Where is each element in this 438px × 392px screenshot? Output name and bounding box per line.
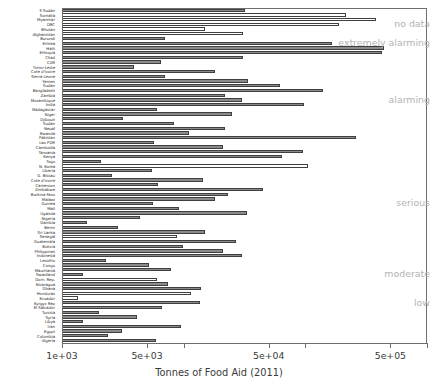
bar <box>62 169 152 172</box>
bar <box>62 136 356 139</box>
severity-annotation: moderate <box>384 268 430 279</box>
bar <box>62 188 263 191</box>
bar <box>62 296 78 299</box>
bar <box>62 9 245 12</box>
bar <box>62 311 99 314</box>
bar <box>62 13 346 16</box>
bar <box>62 145 223 148</box>
bar <box>62 98 242 101</box>
bar <box>62 60 161 63</box>
bar <box>62 56 243 59</box>
bar <box>62 273 83 276</box>
severity-annotation: no data <box>394 18 430 29</box>
bar <box>62 235 177 238</box>
bar <box>62 84 280 87</box>
bar <box>62 183 158 186</box>
bar <box>62 37 165 40</box>
bar <box>62 46 384 49</box>
bar <box>62 79 248 82</box>
bar <box>62 18 376 21</box>
plot-area <box>62 8 427 343</box>
bar <box>62 178 203 181</box>
bar <box>62 27 205 30</box>
bar <box>62 263 149 266</box>
bar <box>62 254 242 257</box>
bar <box>62 155 282 158</box>
bar <box>62 131 189 134</box>
x-axis-tick <box>390 343 391 348</box>
bar <box>62 122 174 125</box>
bar <box>62 127 225 130</box>
bar <box>62 315 137 318</box>
bar <box>62 325 181 328</box>
bar <box>62 193 228 196</box>
x-axis-tick <box>427 343 428 348</box>
bar <box>62 240 236 243</box>
x-axis-tick-label: 5e+03 <box>131 350 162 361</box>
bar <box>62 245 183 248</box>
bar <box>62 282 168 285</box>
bar <box>62 259 106 262</box>
bar <box>62 292 191 295</box>
bar <box>62 108 157 111</box>
bar <box>62 197 215 200</box>
x-axis-tick-label: 1e+03 <box>46 350 77 361</box>
bar <box>62 334 108 337</box>
x-axis-tick <box>305 343 306 348</box>
x-axis-line <box>62 343 427 344</box>
bar <box>62 329 122 332</box>
x-axis-tick <box>147 343 148 348</box>
bar <box>62 249 223 252</box>
bar <box>62 117 123 120</box>
bar <box>62 112 232 115</box>
bar <box>62 89 323 92</box>
bar <box>62 207 179 210</box>
food-aid-bar-chart: S SudanSomaliaMyanmarDRCBhutanAfghanista… <box>0 0 438 392</box>
x-axis-tick-label: 5e+05 <box>375 350 406 361</box>
bar <box>62 221 87 224</box>
bar <box>62 103 304 106</box>
bar <box>62 216 140 219</box>
bar <box>62 70 215 73</box>
bar <box>62 32 243 35</box>
bar <box>62 141 154 144</box>
severity-annotation: extremely alarming <box>338 37 430 48</box>
bar <box>62 278 157 281</box>
bar <box>62 287 201 290</box>
bar <box>62 226 118 229</box>
y-axis-category-labels: S SudanSomaliaMyanmarDRCBhutanAfghanista… <box>0 8 58 343</box>
severity-annotation: low <box>414 297 430 308</box>
bar <box>62 306 162 309</box>
x-axis: 1e+035e+035e+045e+05 Tonnes of Food Aid … <box>0 343 438 392</box>
bar <box>62 160 101 163</box>
x-axis-tick <box>184 343 185 348</box>
bar <box>62 202 153 205</box>
x-axis-tick-label: 5e+04 <box>253 350 284 361</box>
x-axis-tick <box>62 343 63 348</box>
bar <box>62 211 247 214</box>
bar <box>62 65 134 68</box>
bar <box>62 230 205 233</box>
bar <box>62 301 200 304</box>
bar <box>62 23 339 26</box>
bar <box>62 320 83 323</box>
bar <box>62 94 225 97</box>
bar <box>62 339 156 342</box>
severity-annotation: alarming <box>389 94 430 105</box>
bar <box>62 174 112 177</box>
bar <box>62 268 171 271</box>
bar <box>62 150 303 153</box>
bar <box>62 75 165 78</box>
x-axis-title: Tonnes of Food Aid (2011) <box>0 367 438 378</box>
bar <box>62 164 308 167</box>
severity-annotation: serious <box>396 197 430 208</box>
bar <box>62 42 332 45</box>
x-axis-tick <box>269 343 270 348</box>
bar <box>62 51 382 54</box>
